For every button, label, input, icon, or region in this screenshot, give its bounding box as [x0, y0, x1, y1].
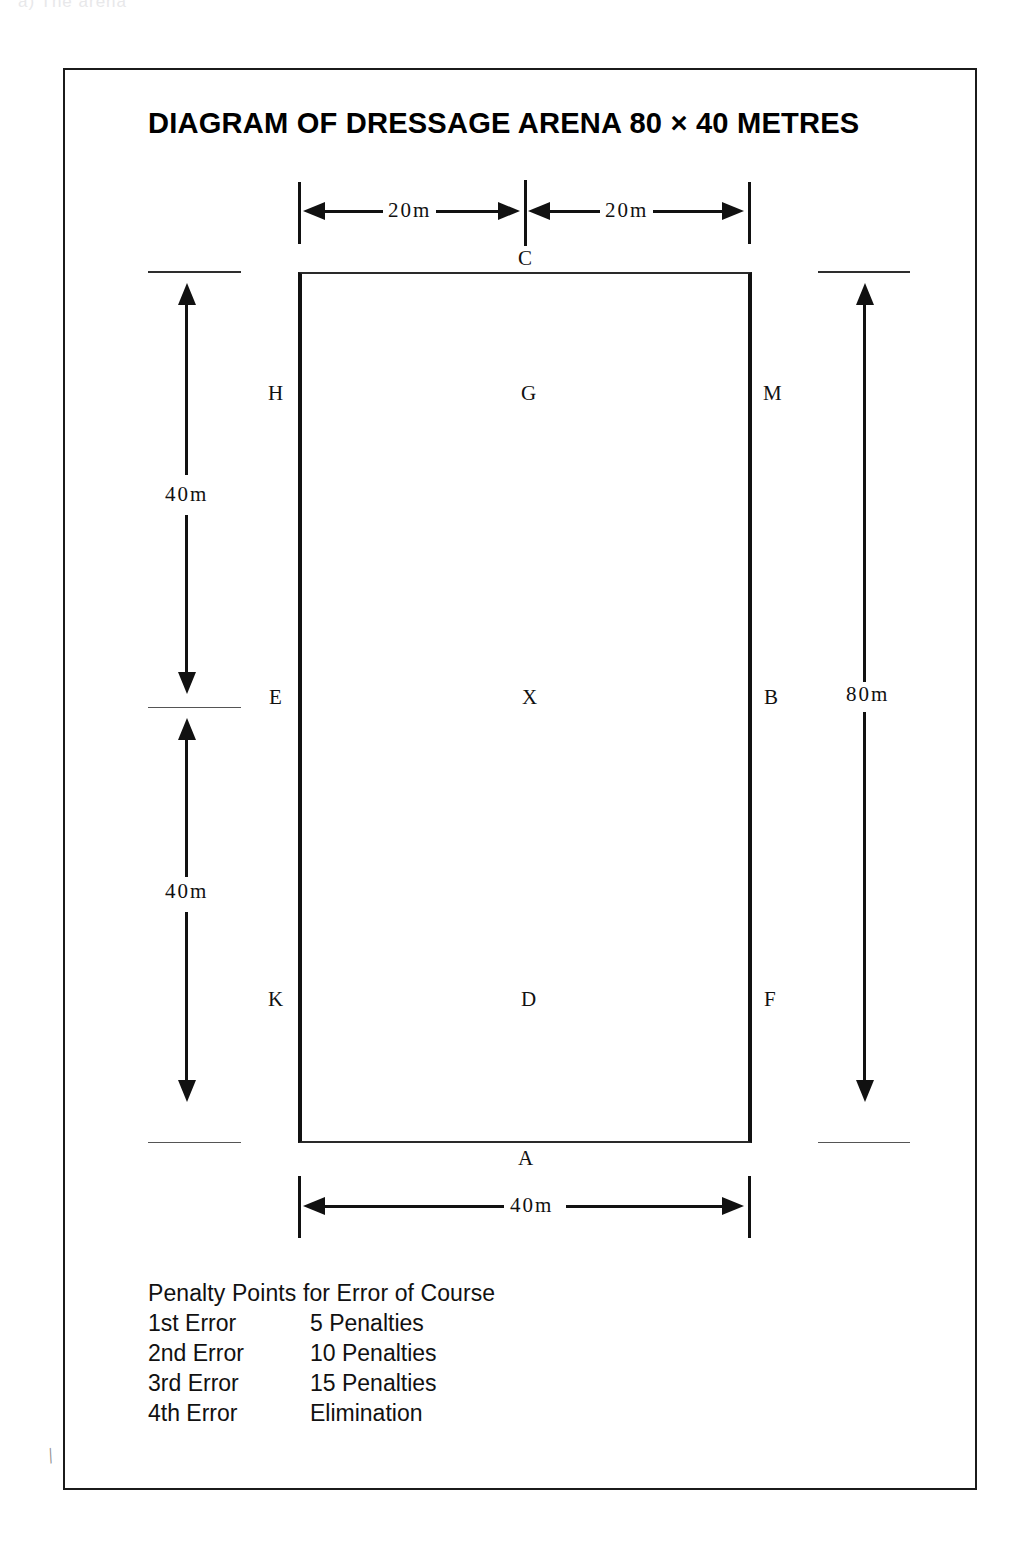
arena-marker-e: E: [269, 687, 282, 708]
top-dim-tick-left: [298, 182, 301, 244]
bottom-dim-tick-left: [298, 1176, 301, 1238]
left-lower-dim-shaft-top: [185, 735, 188, 877]
penalty-label-2: 2nd Error: [148, 1339, 310, 1369]
penalty-value-1: 5 Penalties: [310, 1309, 424, 1339]
left-dim-rule-middle: [148, 707, 241, 708]
top-right-dim-label: 20m: [600, 200, 653, 221]
penalty-value-4: Elimination: [310, 1399, 423, 1429]
penalty-label-4: 4th Error: [148, 1399, 310, 1429]
left-dim-rule-bottom: [148, 1142, 241, 1143]
arena-marker-g: G: [521, 383, 536, 404]
arena-marker-c: C: [518, 248, 532, 269]
bottom-dim-label: 40m: [505, 1195, 558, 1216]
right-dim-rule-bottom: [818, 1142, 910, 1143]
right-dim-shaft-top: [863, 300, 866, 682]
penalty-row-1: 1st Error 5 Penalties: [148, 1309, 495, 1339]
penalty-value-2: 10 Penalties: [310, 1339, 437, 1369]
arena-marker-h: H: [268, 383, 283, 404]
arena-marker-b: B: [764, 687, 778, 708]
bottom-dim-shaft-right: [566, 1205, 730, 1208]
bottom-dim-shaft-left: [318, 1205, 504, 1208]
left-lower-dim-arrowhead-down: [178, 1080, 196, 1102]
arena-marker-a: A: [518, 1148, 533, 1169]
arena-marker-f: F: [764, 989, 776, 1010]
bottom-dim-tick-right: [748, 1176, 751, 1238]
right-dim-label: 80m: [841, 684, 894, 705]
left-lower-dim-shaft-bottom: [185, 912, 188, 1087]
arena-marker-d: D: [521, 989, 536, 1010]
right-dim-shaft-bottom: [863, 712, 866, 1087]
left-upper-dim-shaft-top: [185, 300, 188, 475]
penalty-row-2: 2nd Error 10 Penalties: [148, 1339, 495, 1369]
top-dim-tick-center: [524, 180, 527, 246]
penalty-points-block: Penalty Points for Error of Course 1st E…: [148, 1280, 495, 1429]
arena-marker-x: X: [522, 687, 537, 708]
bottom-dim-arrowhead-left: [303, 1197, 325, 1215]
arena-marker-k: K: [268, 989, 283, 1010]
top-right-dim-arrowhead-left: [528, 202, 550, 220]
left-upper-dim-arrowhead-down: [178, 672, 196, 694]
top-left-dim-label: 20m: [383, 200, 436, 221]
left-lower-dim-label: 40m: [160, 881, 213, 902]
top-right-dim-arrowhead-right: [722, 202, 744, 220]
top-dim-tick-right: [748, 182, 751, 244]
bottom-dim-arrowhead-right: [722, 1197, 744, 1215]
top-left-dim-arrowhead-right: [498, 202, 520, 220]
penalty-row-4: 4th Error Elimination: [148, 1399, 495, 1429]
top-left-dim-arrowhead-left: [303, 202, 325, 220]
clipped-scan-header: a) The arena: [18, 0, 127, 12]
penalty-label-1: 1st Error: [148, 1309, 310, 1339]
penalty-row-3: 3rd Error 15 Penalties: [148, 1369, 495, 1399]
left-upper-dim-shaft-bottom: [185, 515, 188, 681]
page-title: DIAGRAM OF DRESSAGE ARENA 80 × 40 METRES: [148, 106, 914, 140]
penalty-label-3: 3rd Error: [148, 1369, 310, 1399]
penalty-value-3: 15 Penalties: [310, 1369, 437, 1399]
right-dim-arrowhead-down: [856, 1080, 874, 1102]
left-dim-rule-top: [148, 271, 241, 273]
right-dim-rule-top: [818, 271, 910, 273]
arena-marker-m: M: [763, 383, 782, 404]
penalty-heading: Penalty Points for Error of Course: [148, 1280, 495, 1307]
left-upper-dim-label: 40m: [160, 484, 213, 505]
